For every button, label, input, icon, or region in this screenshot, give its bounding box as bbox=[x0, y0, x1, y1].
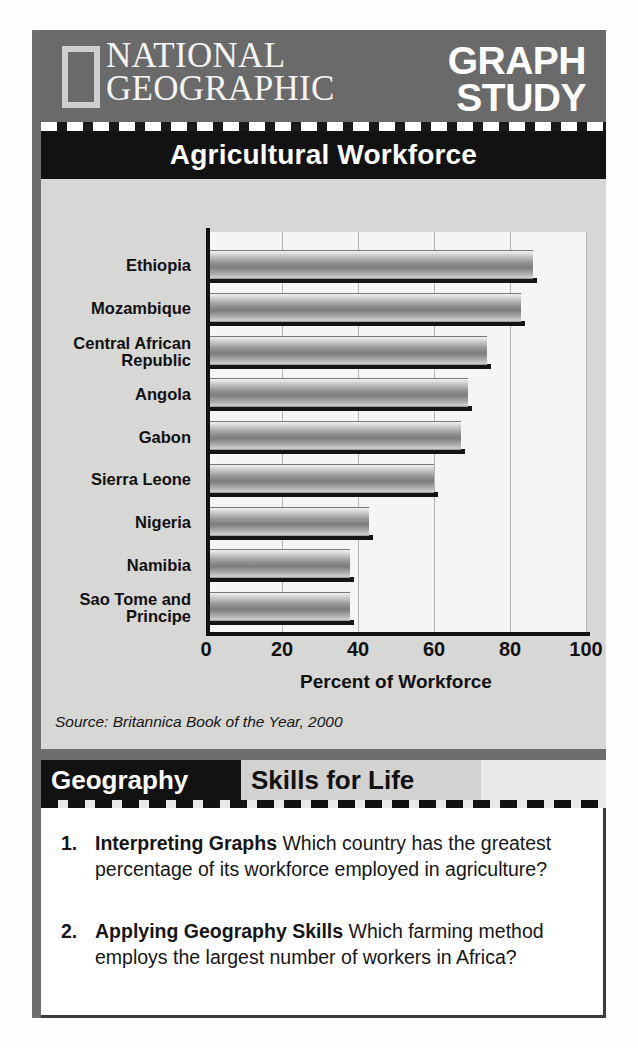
x-axis-tick-label: 0 bbox=[200, 638, 211, 661]
skills-separator bbox=[41, 749, 606, 760]
feature-title: GRAPH STUDY bbox=[448, 42, 586, 117]
question-item: 1.Interpreting Graphs Which country has … bbox=[61, 830, 581, 882]
category-label-line: Principe bbox=[39, 608, 191, 625]
question-body: Interpreting Graphs Which country has th… bbox=[95, 830, 581, 882]
chart-source: Source: Britannica Book of the Year, 200… bbox=[55, 713, 343, 731]
questions-panel: 1.Interpreting Graphs Which country has … bbox=[41, 808, 606, 1018]
bar-row bbox=[206, 546, 586, 586]
x-axis-tick-label: 100 bbox=[569, 638, 602, 661]
brand-wordmark: NATIONAL GEOGRAPHIC bbox=[106, 40, 335, 106]
question-lead: Interpreting Graphs bbox=[95, 832, 277, 854]
bar bbox=[206, 592, 350, 621]
question-number: 1. bbox=[61, 830, 91, 856]
bar bbox=[206, 250, 533, 279]
x-axis-line bbox=[206, 632, 590, 636]
bar bbox=[206, 421, 461, 450]
category-label: Angola bbox=[39, 386, 191, 403]
skills-tag: Geography bbox=[41, 760, 241, 800]
bar-row bbox=[206, 290, 586, 330]
category-label: Central AfricanRepublic bbox=[39, 335, 191, 369]
category-label-line: Republic bbox=[39, 352, 191, 369]
brand-line-2: GEOGRAPHIC bbox=[106, 73, 335, 106]
bar-row bbox=[206, 461, 586, 501]
dashed-divider-pattern bbox=[41, 122, 606, 131]
question-body: Applying Geography Skills Which farming … bbox=[95, 918, 581, 970]
x-axis-title: Percent of Workforce bbox=[206, 671, 586, 693]
gridline bbox=[586, 232, 587, 632]
category-axis-labels: EthiopiaMozambiqueCentral AfricanRepubli… bbox=[41, 232, 199, 632]
skills-title: Skills for Life bbox=[241, 760, 481, 800]
chart-area: EthiopiaMozambiqueCentral AfricanRepubli… bbox=[41, 179, 606, 749]
category-label-line: Ethiopia bbox=[39, 257, 191, 274]
x-axis-tick-label: 60 bbox=[423, 638, 445, 661]
category-label-line: Mozambique bbox=[39, 300, 191, 317]
category-label-line: Sao Tome and bbox=[39, 591, 191, 608]
plot-region bbox=[206, 232, 586, 632]
category-label: Nigeria bbox=[39, 514, 191, 531]
category-label: Mozambique bbox=[39, 300, 191, 317]
value-axis-ticks: 020406080100 bbox=[206, 638, 586, 666]
bar bbox=[206, 507, 369, 536]
bar bbox=[206, 464, 434, 493]
graph-study-page: NATIONAL GEOGRAPHIC GRAPH STUDY Agricult… bbox=[0, 0, 638, 1048]
x-axis-tick-label: 40 bbox=[347, 638, 369, 661]
x-axis-tick-label: 80 bbox=[499, 638, 521, 661]
category-label-line: Angola bbox=[39, 386, 191, 403]
category-label: Sierra Leone bbox=[39, 471, 191, 488]
chart-title: Agricultural Workforce bbox=[41, 131, 606, 179]
header-dashed-divider bbox=[41, 122, 606, 131]
feature-line-2: STUDY bbox=[448, 79, 586, 116]
bar-row bbox=[206, 504, 586, 544]
chart-title-bar: Agricultural Workforce bbox=[41, 131, 606, 179]
question-lead: Applying Geography Skills bbox=[95, 920, 343, 942]
y-axis-line bbox=[206, 228, 210, 636]
category-label: Namibia bbox=[39, 557, 191, 574]
bar-row bbox=[206, 375, 586, 415]
national-geographic-rectangle-icon bbox=[62, 46, 100, 108]
bar-row bbox=[206, 247, 586, 287]
category-label: Gabon bbox=[39, 429, 191, 446]
card-left-spine bbox=[32, 30, 41, 1018]
category-label-line: Nigeria bbox=[39, 514, 191, 531]
question-item: 2.Applying Geography Skills Which farmin… bbox=[61, 918, 581, 970]
category-label: Sao Tome andPrincipe bbox=[39, 591, 191, 625]
bar bbox=[206, 336, 487, 365]
category-label-line: Gabon bbox=[39, 429, 191, 446]
question-number: 2. bbox=[61, 918, 91, 944]
category-label: Ethiopia bbox=[39, 257, 191, 274]
header-band: NATIONAL GEOGRAPHIC GRAPH STUDY bbox=[41, 30, 606, 122]
bar-row bbox=[206, 333, 586, 373]
bar bbox=[206, 293, 521, 322]
national-geographic-logo: NATIONAL GEOGRAPHIC bbox=[62, 40, 335, 108]
x-axis-tick-label: 20 bbox=[271, 638, 293, 661]
skills-header: Geography Skills for Life bbox=[41, 760, 606, 800]
feature-line-1: GRAPH bbox=[448, 42, 586, 79]
bar-row bbox=[206, 589, 586, 629]
graph-study-card: NATIONAL GEOGRAPHIC GRAPH STUDY Agricult… bbox=[32, 30, 606, 1018]
bar bbox=[206, 549, 350, 578]
category-label-line: Sierra Leone bbox=[39, 471, 191, 488]
bar-row bbox=[206, 418, 586, 458]
category-label-line: Central African bbox=[39, 335, 191, 352]
skills-dashed-divider bbox=[41, 800, 606, 808]
brand-line-1: NATIONAL bbox=[106, 40, 335, 73]
category-label-line: Namibia bbox=[39, 557, 191, 574]
plot-wrapper bbox=[206, 232, 586, 632]
bar bbox=[206, 378, 468, 407]
